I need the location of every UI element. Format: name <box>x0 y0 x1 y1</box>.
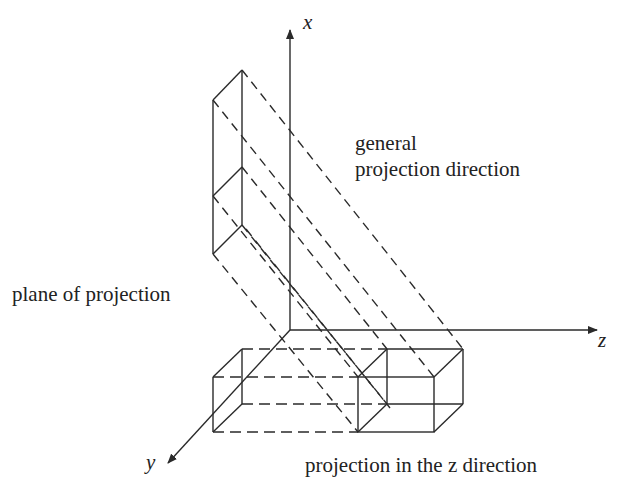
box-right-solid <box>358 349 463 432</box>
plane-label: plane of projection <box>12 284 171 305</box>
general-label-line2: projection direction <box>355 159 520 180</box>
plane-panel <box>213 70 242 254</box>
projection-z-label: projection in the z direction <box>305 455 537 476</box>
z-axis-label: z <box>598 330 606 351</box>
projection-diagram <box>0 0 629 497</box>
x-axis-label: x <box>303 12 312 33</box>
projection-lines <box>213 70 463 432</box>
y-axis-label: y <box>146 452 155 473</box>
diagram-canvas: x z y general projection direction plane… <box>0 0 629 497</box>
general-label-line1: general <box>355 133 417 154</box>
y-axis <box>168 330 290 463</box>
